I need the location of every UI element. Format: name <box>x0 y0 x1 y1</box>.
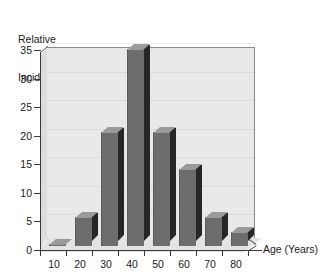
bar-70 <box>205 217 221 246</box>
y-axis-depth-connector <box>40 46 48 53</box>
gridline <box>47 72 255 73</box>
bar-80 <box>231 232 247 246</box>
bar-side-face <box>169 128 176 242</box>
bar-40 <box>127 49 143 246</box>
bar-front-face <box>205 217 222 246</box>
bar-side-face <box>117 128 124 242</box>
gridline <box>47 157 255 158</box>
y-axis-tick-label: 25 <box>12 101 32 113</box>
gridline <box>47 100 255 101</box>
gridline <box>47 186 255 187</box>
y-axis-tick-label: 10 <box>12 187 32 199</box>
x-axis-tick-label: 50 <box>145 258 171 270</box>
x-axis-tick <box>196 251 197 256</box>
y-axis-tick-label: 0 <box>12 244 32 256</box>
bar-front-face <box>75 217 92 246</box>
x-axis-tick <box>144 251 145 256</box>
x-axis-line <box>40 250 262 251</box>
y-axis-tick <box>34 50 41 51</box>
x-axis-end-notch-icon <box>249 239 261 251</box>
x-axis-tick-label: 60 <box>171 258 197 270</box>
bar-side-face <box>143 45 150 242</box>
gridline <box>47 43 255 44</box>
bar-chart: Relative Incidence 05101520253035 102030… <box>0 0 332 279</box>
x-axis-tick-label: 70 <box>197 258 223 270</box>
x-axis-tick-label: 10 <box>41 258 67 270</box>
bar-50 <box>153 132 169 246</box>
bar-front-face <box>231 232 248 246</box>
x-axis-tick-label: 20 <box>67 258 93 270</box>
bar-60 <box>179 169 195 246</box>
x-axis-tick <box>170 251 171 256</box>
bar-30 <box>101 132 117 246</box>
x-axis-tick-label: 30 <box>93 258 119 270</box>
x-axis-tick <box>40 251 41 256</box>
bar-10 <box>49 244 65 246</box>
bar-front-face <box>179 169 196 246</box>
x-axis-tick <box>118 251 119 256</box>
y-axis-tick-label: 20 <box>12 130 32 142</box>
x-axis-title: Age (Years) <box>263 243 318 255</box>
y-axis-line <box>40 52 41 251</box>
bar-front-face <box>101 132 118 246</box>
y-axis-tick-label: 15 <box>12 158 32 170</box>
gridline <box>47 129 255 130</box>
y-axis-tick-label: 35 <box>12 44 32 56</box>
bar-front-face <box>153 132 170 246</box>
bar-front-face <box>127 49 144 246</box>
y-axis-tick-label: 30 <box>12 73 32 85</box>
x-axis-tick-label: 80 <box>223 258 249 270</box>
y-axis-tick-label: 5 <box>12 215 32 227</box>
x-axis-tick <box>248 251 249 256</box>
x-axis-tick <box>92 251 93 256</box>
bar-20 <box>75 217 91 246</box>
x-axis-tick <box>222 251 223 256</box>
x-axis-tick <box>66 251 67 256</box>
x-axis-tick-label: 40 <box>119 258 145 270</box>
bar-side-face <box>195 165 202 242</box>
